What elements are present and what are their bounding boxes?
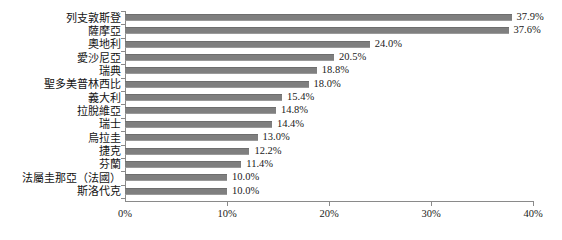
category-label: 斯洛代克: [77, 185, 121, 197]
category-label: 奧地利: [88, 38, 121, 50]
category-label: 烏拉圭: [88, 132, 121, 144]
y-axis-tick: [121, 91, 125, 92]
bar-row: 14.8%: [125, 104, 533, 117]
category-label: 捷克: [99, 145, 121, 157]
category-label: 列支敦斯登: [66, 12, 121, 24]
bar[interactable]: [125, 161, 241, 168]
bar[interactable]: [125, 107, 276, 114]
bar-value-label: 24.0%: [375, 37, 402, 50]
category-label: 法屬圭那亞（法國）: [22, 172, 121, 184]
bar-value-label: 18.0%: [314, 77, 341, 90]
bar-value-label: 12.2%: [254, 144, 281, 157]
bar[interactable]: [125, 188, 227, 195]
bar[interactable]: [125, 121, 272, 128]
bar-value-label: 10.0%: [232, 170, 259, 183]
bar-value-label: 10.0%: [232, 184, 259, 197]
bar-row: 11.4%: [125, 158, 533, 171]
bar-value-label: 14.8%: [281, 103, 308, 116]
y-axis-tick: [121, 131, 125, 132]
x-axis-tick: [227, 202, 228, 206]
y-axis-tick: [121, 145, 125, 146]
bar-row: 37.9%: [125, 11, 533, 24]
y-axis-tick: [121, 185, 125, 186]
x-axis-tick: [431, 202, 432, 206]
bar-value-label: 37.9%: [517, 10, 544, 23]
x-axis-tick-label: 30%: [421, 208, 440, 220]
bar-row: 13.0%: [125, 131, 533, 144]
bar-row: 20.5%: [125, 51, 533, 64]
bar-row: 37.6%: [125, 24, 533, 37]
bar-row: 18.0%: [125, 78, 533, 91]
y-axis-tick: [121, 11, 125, 12]
bar-row: 24.0%: [125, 38, 533, 51]
y-axis-tick: [121, 24, 125, 25]
plot-area: 37.9%37.6%24.0%20.5%18.8%18.0%15.4%14.8%…: [125, 11, 533, 201]
y-axis-tick: [121, 158, 125, 159]
x-axis-tick-label: 10%: [217, 208, 236, 220]
x-axis-tick-label: 40%: [523, 208, 542, 220]
bar[interactable]: [125, 94, 282, 101]
bar-value-label: 37.6%: [514, 23, 541, 36]
bar-row: 10.0%: [125, 171, 533, 184]
bar[interactable]: [125, 148, 249, 155]
bar[interactable]: [125, 41, 370, 48]
bar[interactable]: [125, 14, 512, 21]
bar[interactable]: [125, 67, 317, 74]
bar-row: 15.4%: [125, 91, 533, 104]
category-label: 聖多美普林西比: [44, 78, 121, 90]
y-axis-tick: [121, 118, 125, 119]
bar-value-label: 18.8%: [322, 63, 349, 76]
category-label: 瑞士: [99, 118, 121, 130]
y-axis-tick: [121, 198, 125, 199]
category-label: 愛沙尼亞: [77, 52, 121, 64]
y-axis-tick: [121, 38, 125, 39]
bar-value-label: 13.0%: [263, 130, 290, 143]
bar-row: 10.0%: [125, 185, 533, 198]
bar[interactable]: [125, 81, 309, 88]
x-axis-tick: [533, 202, 534, 206]
bar-row: 18.8%: [125, 64, 533, 77]
bar-value-label: 15.4%: [287, 90, 314, 103]
y-axis-tick: [121, 104, 125, 105]
y-axis-tick: [121, 64, 125, 65]
x-axis-tick-label: 20%: [319, 208, 338, 220]
y-axis-tick: [121, 51, 125, 52]
y-axis-tick: [121, 78, 125, 79]
category-label: 瑞典: [99, 65, 121, 77]
y-axis-tick: [121, 171, 125, 172]
bar[interactable]: [125, 27, 509, 34]
bar-row: 14.4%: [125, 118, 533, 131]
bar-row: 12.2%: [125, 145, 533, 158]
x-axis-tick: [329, 202, 330, 206]
bar[interactable]: [125, 54, 334, 61]
category-label: 薩摩亞: [88, 25, 121, 37]
x-axis-tick-label: 0%: [118, 208, 132, 220]
category-label: 芬蘭: [99, 158, 121, 170]
bar-value-label: 20.5%: [339, 50, 366, 63]
category-label: 拉脫維亞: [77, 105, 121, 117]
bar-chart: 列支敦斯登薩摩亞奧地利愛沙尼亞瑞典聖多美普林西比義大利拉脫維亞瑞士烏拉圭捷克芬蘭…: [0, 0, 562, 240]
bar-value-label: 11.4%: [246, 157, 273, 170]
bar[interactable]: [125, 134, 258, 141]
bar-value-label: 14.4%: [277, 117, 304, 130]
category-label: 義大利: [88, 92, 121, 104]
bar[interactable]: [125, 174, 227, 181]
